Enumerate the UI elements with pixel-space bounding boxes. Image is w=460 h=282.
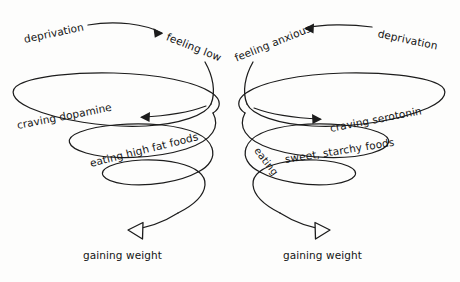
right-arrow-deprivation-to-feeling-anxious — [306, 25, 372, 28]
left-terminal-arrowhead — [128, 223, 143, 240]
left-arrowhead-craving-dopamine — [140, 112, 150, 122]
label-left-gaining-weight: gaining weight — [83, 250, 162, 261]
right-arrowhead-craving-serotonin — [312, 114, 322, 124]
spiral-diagram-figure: deprivation feeling low craving dopamine… — [0, 0, 460, 282]
right-arrow-to-craving-serotonin — [254, 108, 320, 119]
left-spiral-loop-3 — [102, 160, 205, 213]
left-arrowhead-feeling-low — [154, 28, 164, 38]
right-connector-feeling-anxious-to-spiral — [245, 62, 253, 104]
right-inner-arrow-group — [254, 108, 322, 124]
right-terminal-arrowhead — [315, 223, 330, 240]
right-spiral-loop-1 — [239, 73, 445, 126]
left-arrow-deprivation-to-feeling-low — [88, 23, 162, 33]
label-right-gaining-weight: gaining weight — [283, 250, 362, 261]
left-connector-feeling-low-to-spiral — [205, 62, 213, 104]
left-spiral-group — [13, 23, 219, 239]
left-inner-arrow-group — [140, 106, 206, 122]
